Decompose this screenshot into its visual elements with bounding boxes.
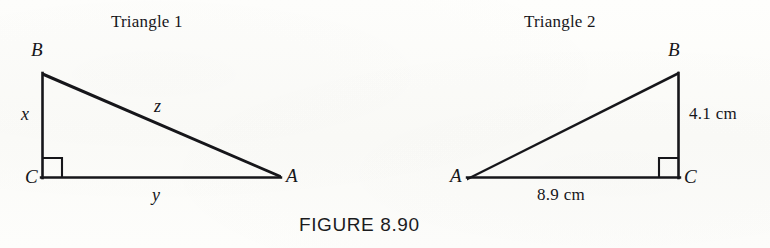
figure-container: Triangle 1 B C A x z y Triangle 2 B C A … <box>0 0 770 248</box>
triangle-2-right-angle-marker <box>659 158 679 178</box>
triangle-2-heading: Triangle 2 <box>524 13 596 30</box>
triangle-1-side-z <box>42 72 281 178</box>
triangle-2-measure-horizontal: 8.9 cm <box>537 186 585 203</box>
triangle-1-shape <box>41 72 281 178</box>
triangle-2-vertex-label-b: B <box>668 40 680 59</box>
triangle-2-measure-vertical: 4.1 cm <box>689 105 737 122</box>
figure-caption: FIGURE 8.90 <box>299 215 420 234</box>
triangle-2-shape <box>467 72 680 181</box>
triangle-1-vertex-label-b: B <box>31 40 43 59</box>
triangle-1-vertex-label-c: C <box>25 167 38 186</box>
triangle-1-right-angle-marker <box>43 158 63 178</box>
triangle-1-vertex-label-a: A <box>286 166 298 185</box>
triangle-2-vertex-label-c: C <box>684 167 697 186</box>
triangles-drawing <box>0 0 770 248</box>
triangle-1-side-label-x: x <box>21 105 29 123</box>
triangle-2-vertex-label-a: A <box>450 166 462 185</box>
triangle-2-hypotenuse <box>467 72 679 181</box>
triangle-1-heading: Triangle 1 <box>111 13 183 30</box>
triangle-1-side-label-y: y <box>152 186 160 204</box>
triangle-1-side-label-z: z <box>154 97 161 115</box>
